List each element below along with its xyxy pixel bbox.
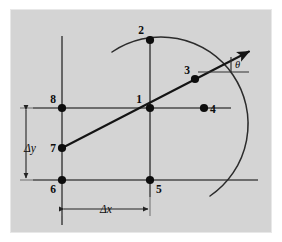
node-label-3: 3 xyxy=(184,64,190,76)
node-dot-8 xyxy=(58,104,66,112)
delta-y-label: Δy xyxy=(23,142,37,155)
node-label-2: 2 xyxy=(138,24,144,36)
angle-label: θ xyxy=(235,59,240,70)
figure-background-plate xyxy=(10,9,272,233)
node-label-1: 1 xyxy=(136,93,142,105)
node-dot-6 xyxy=(58,176,66,184)
node-dot-7 xyxy=(58,144,66,152)
node-label-7: 7 xyxy=(50,142,56,154)
node-label-5: 5 xyxy=(156,183,162,195)
figure-container: θ Δy Δx 1 2 3 4 5 xyxy=(0,0,282,242)
node-label-8: 8 xyxy=(50,93,56,105)
node-label-6: 6 xyxy=(50,183,56,195)
node-dot-1 xyxy=(146,104,154,112)
node-dot-2 xyxy=(146,36,154,44)
node-dot-5 xyxy=(146,176,154,184)
diagram-canvas: θ Δy Δx 1 2 3 4 5 xyxy=(0,0,282,242)
delta-x-label: Δx xyxy=(99,203,113,215)
node-dot-3 xyxy=(191,75,199,83)
node-label-4: 4 xyxy=(210,103,216,115)
node-dot-4 xyxy=(200,104,208,112)
